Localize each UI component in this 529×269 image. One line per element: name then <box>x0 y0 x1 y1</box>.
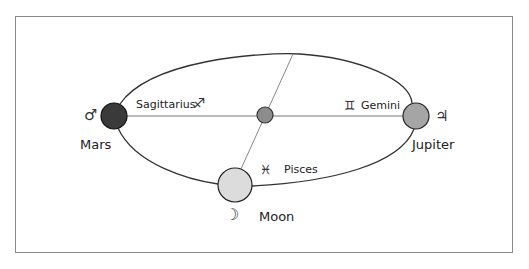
gemini-symbol-icon: ♊ <box>344 99 356 112</box>
jupiter-symbol-icon: ♃ <box>435 109 448 124</box>
orbit-diagram <box>0 0 529 269</box>
jupiter-planet <box>403 103 429 129</box>
moon-body <box>218 168 252 202</box>
orbit-upper-arc <box>120 54 412 104</box>
mars-symbol-icon: ♂ <box>84 108 97 123</box>
mars-planet <box>101 103 127 129</box>
pisces-label: Pisces <box>284 163 318 176</box>
orbit-lower-arc <box>118 128 218 184</box>
pisces-symbol-icon: ♓ <box>260 163 272 176</box>
sun-center <box>257 107 273 123</box>
jupiter-label: Jupiter <box>412 137 454 152</box>
moon-symbol-icon: ☽ <box>225 207 239 223</box>
mars-label: Mars <box>80 137 111 152</box>
orbit-lower-arc-right <box>252 129 414 186</box>
moon-label: Moon <box>259 209 294 224</box>
sagittarius-symbol-icon: ♐ <box>193 96 206 110</box>
sagittarius-label: Sagittarius <box>136 98 195 111</box>
gemini-label: Gemini <box>361 99 400 112</box>
